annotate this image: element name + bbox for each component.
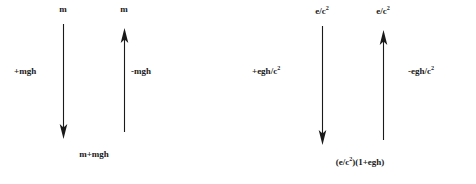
left-down-arrow-bottom-label: m+mgh [79, 150, 109, 159]
right-down-arrow-side-label-base: +egh/c [252, 66, 277, 76]
left-up-arrow [119, 28, 130, 134]
physics-arrow-diagram: m +mgh m+mgh m -mgh e/c2 +egh/c2 [0, 0, 476, 184]
left-down-arrow [58, 24, 69, 140]
right-down-arrow-top-label-exponent: 2 [326, 5, 329, 11]
right-down-arrow-top-label: e/c2 [315, 7, 329, 16]
right-down-arrow-top-label-base: e/c [315, 6, 326, 16]
right-down-arrow-bottom-label-part2: )(1+egh) [352, 157, 384, 167]
right-up-arrow [378, 30, 389, 142]
right-up-arrow-side-label-exponent: 2 [431, 65, 434, 71]
left-down-arrow-top-label: m [59, 5, 67, 14]
right-up-arrow-side-label: -egh/c2 [408, 67, 434, 76]
left-up-arrow-side-label: -mgh [131, 67, 151, 76]
right-down-arrow [317, 26, 328, 146]
right-down-arrow-side-label: +egh/c2 [252, 67, 280, 76]
right-up-arrow-side-label-base: -egh/c [408, 66, 431, 76]
right-down-arrow-bottom-label: (e/c2)(1+egh) [336, 158, 385, 167]
right-up-arrow-top-label: e/c2 [376, 7, 390, 16]
right-up-arrow-top-label-base: e/c [376, 6, 387, 16]
right-down-arrow-bottom-label-part1: (e/c [336, 157, 350, 167]
right-up-arrow-top-label-exponent: 2 [387, 5, 390, 11]
right-down-arrow-side-label-exponent: 2 [277, 65, 280, 71]
left-down-arrow-side-label: +mgh [14, 67, 36, 76]
left-up-arrow-top-label: m [120, 5, 128, 14]
